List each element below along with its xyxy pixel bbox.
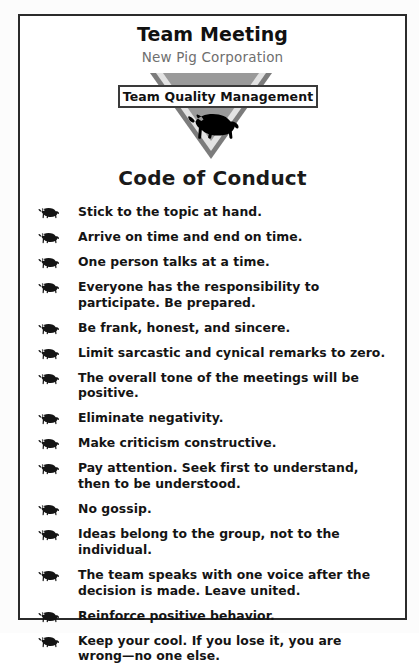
list-item: Eliminate negativity. (20, 410, 405, 426)
list-item: Limit sarcastic and cynical remarks to z… (20, 345, 405, 361)
pig-silhouette-bullet-icon (38, 412, 60, 426)
list-item-label: Eliminate negativity. (78, 410, 389, 426)
list-item-label: No gossip. (78, 501, 389, 517)
list-item: One person talks at a time. (20, 254, 405, 270)
pig-silhouette-icon (187, 111, 241, 141)
list-item-label: The team speaks with one voice after the… (78, 567, 389, 599)
list-item-label: Stick to the topic at hand. (78, 204, 389, 220)
tqm-logo: Team Quality Management (20, 69, 409, 164)
pig-silhouette-bullet-icon (38, 635, 60, 649)
code-of-conduct-poster: Team Meeting New Pig Corporation Team Qu… (18, 14, 407, 620)
pig-silhouette-bullet-icon (38, 347, 60, 361)
list-item: Stick to the topic at hand. (20, 204, 405, 220)
list-item: Everyone has the responsibility to parti… (20, 279, 405, 311)
list-item-label: Arrive on time and end on time. (78, 229, 389, 245)
list-item-label: Keep your cool. If you lose it, you are … (78, 633, 389, 664)
list-item: Keep your cool. If you lose it, you are … (20, 633, 405, 664)
pig-silhouette-bullet-icon (38, 206, 60, 220)
code-of-conduct-list: Stick to the topic at hand. Arrive on ti… (20, 190, 405, 664)
pig-silhouette-bullet-icon (38, 437, 60, 451)
tqm-banner: Team Quality Management (118, 85, 318, 108)
list-item: Be frank, honest, and sincere. (20, 320, 405, 336)
list-item: Ideas belong to the group, not to the in… (20, 526, 405, 558)
pig-silhouette-bullet-icon (38, 569, 60, 583)
list-item-label: Everyone has the responsibility to parti… (78, 279, 389, 311)
pig-silhouette-bullet-icon (38, 462, 60, 476)
pig-silhouette-bullet-icon (38, 281, 60, 295)
pig-silhouette-bullet-icon (38, 322, 60, 336)
list-item-label: Ideas belong to the group, not to the in… (78, 526, 389, 558)
poster-header: Team Meeting New Pig Corporation (20, 16, 405, 65)
organization-subtitle: New Pig Corporation (20, 49, 405, 65)
tqm-banner-label: Team Quality Management (123, 89, 313, 104)
pig-silhouette-bullet-icon (38, 256, 60, 270)
list-item: Pay attention. Seek first to understand,… (20, 460, 405, 492)
page-title: Team Meeting (20, 24, 405, 46)
list-item: No gossip. (20, 501, 405, 517)
list-item-label: Make criticism constructive. (78, 435, 389, 451)
section-heading: Code of Conduct (20, 166, 405, 190)
list-item: The overall tone of the meetings will be… (20, 370, 405, 402)
list-item: Make criticism constructive. (20, 435, 405, 451)
list-item-label: Pay attention. Seek first to understand,… (78, 460, 389, 492)
pig-silhouette-bullet-icon (38, 528, 60, 542)
list-item-label: Limit sarcastic and cynical remarks to z… (78, 345, 389, 361)
list-item-label: The overall tone of the meetings will be… (78, 370, 389, 402)
list-item: The team speaks with one voice after the… (20, 567, 405, 599)
list-item-label: One person talks at a time. (78, 254, 389, 270)
list-item: Arrive on time and end on time. (20, 229, 405, 245)
pig-silhouette-bullet-icon (38, 372, 60, 386)
pig-silhouette-bullet-icon (38, 231, 60, 245)
list-item-label: Be frank, honest, and sincere. (78, 320, 389, 336)
list-item: Reinforce positive behavior. (20, 608, 405, 624)
pig-silhouette-bullet-icon (38, 503, 60, 517)
list-item-label: Reinforce positive behavior. (78, 608, 389, 624)
pig-silhouette-bullet-icon (38, 610, 60, 624)
